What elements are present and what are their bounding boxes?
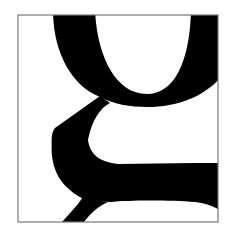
glyph-figure: g <box>0 0 236 244</box>
letter-g-illustration <box>0 0 236 244</box>
